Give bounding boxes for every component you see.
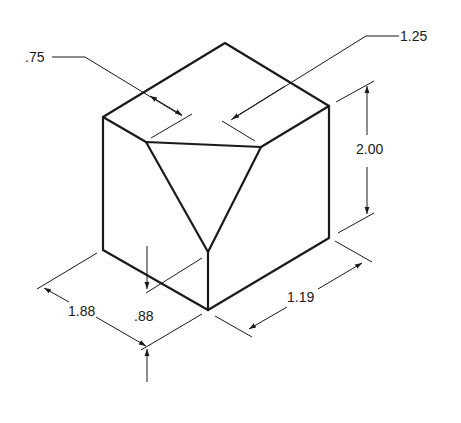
dim-125: 1.25 <box>222 28 427 141</box>
dim-label-075: .75 <box>25 49 45 65</box>
dim-075: .75 <box>25 49 192 138</box>
dim-119: 1.19 <box>215 241 372 337</box>
dim-label-088: .88 <box>134 308 154 324</box>
dim-200: 2.00 <box>336 81 383 233</box>
dim-label-119: 1.19 <box>287 289 314 305</box>
chamfer-face <box>146 142 261 252</box>
isometric-drawing: .75 1.25 2.00 1.88 .88 1.19 <box>0 0 461 423</box>
dim-label-125: 1.25 <box>400 28 427 44</box>
dim-088: .88 <box>134 246 202 324</box>
dim-label-188: 1.88 <box>68 303 95 319</box>
object-outline <box>103 43 329 310</box>
dim-188: 1.88 <box>37 253 202 382</box>
dim-label-200: 2.00 <box>356 141 383 157</box>
